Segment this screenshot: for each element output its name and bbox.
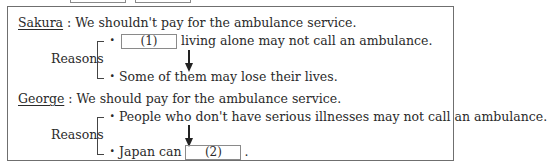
partial-answer-box-1: [70, 0, 126, 3]
george-statement: George : We should pay for the ambulance…: [18, 91, 341, 106]
george-reason-1: ・People who don't have serious illnesses…: [106, 109, 547, 124]
sakura-reason-2: ・Some of them may lose their lives.: [106, 69, 338, 84]
partial-answer-box-2: [135, 0, 191, 3]
sakura-reason-1-text: living alone may not call an ambulance.: [177, 33, 433, 48]
answer-blank-2[interactable]: (2): [185, 145, 241, 160]
speaker-george: George: [18, 91, 64, 106]
george-reason-2-period: .: [244, 144, 248, 159]
answer-blank-1[interactable]: (1): [121, 34, 177, 49]
george-arrow-shaft: [188, 125, 190, 139]
sakura-statement: Sakura : We shouldn't pay for the ambula…: [18, 15, 356, 30]
george-reason-1-text: People who don't have serious illnesses …: [119, 109, 547, 124]
bullet: ・: [106, 144, 119, 159]
sakura-arrow-shaft: [188, 50, 190, 64]
sakura-reasons-bracket: [97, 41, 104, 79]
george-reason-2: ・Japan can (2).: [106, 144, 248, 160]
bullet: ・: [106, 109, 119, 124]
sakura-reason-2-text: Some of them may lose their lives.: [119, 69, 338, 84]
george-statement-text: : We should pay for the ambulance servic…: [64, 91, 341, 106]
george-reasons-bracket: [97, 117, 104, 155]
george-reason-2-text: Japan can: [119, 144, 185, 159]
sakura-statement-text: : We shouldn't pay for the ambulance ser…: [63, 15, 356, 30]
speaker-sakura: Sakura: [18, 15, 63, 30]
bullet: ・: [106, 69, 119, 84]
bullet: ・: [106, 33, 119, 48]
sakura-reasons-label: Reasons: [51, 51, 104, 66]
george-reasons-label: Reasons: [51, 127, 104, 142]
sakura-reason-1: ・(1) living alone may not call an ambula…: [106, 33, 433, 49]
